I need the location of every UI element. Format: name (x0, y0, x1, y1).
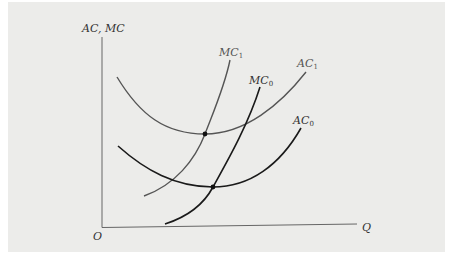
curve-ac1 (117, 72, 306, 134)
curve-mc1 (144, 60, 230, 196)
label-ac0: AC0 (292, 114, 314, 128)
cost-curves-diagram: AC, MC O Q MC1 AC1 MC0 AC0 (0, 0, 449, 259)
label-mc0: MC0 (248, 74, 273, 88)
point-min-ac1 (203, 132, 208, 137)
x-axis (102, 224, 357, 228)
origin-label: O (93, 230, 102, 243)
point-min-ac0 (211, 185, 216, 190)
label-mc1: MC1 (218, 46, 243, 60)
label-ac1: AC1 (296, 57, 318, 71)
x-axis-label: Q (362, 221, 371, 234)
curve-ac0 (118, 128, 301, 187)
curve-mc0 (165, 87, 260, 224)
y-axis-label: AC, MC (81, 22, 125, 35)
